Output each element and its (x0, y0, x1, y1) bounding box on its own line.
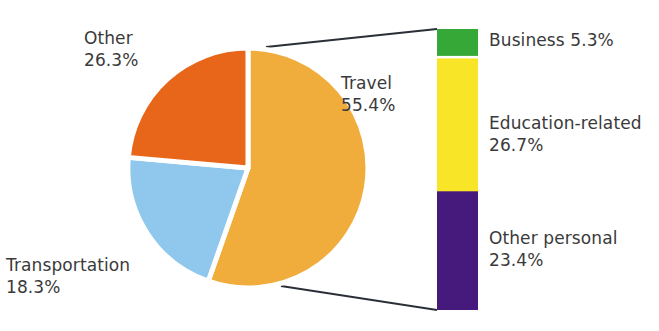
breakout-bar (437, 29, 478, 310)
breakout-segment-business[interactable] (437, 29, 478, 56)
leader-line-top (266, 29, 437, 47)
pie-label-other: Other 26.3% (84, 28, 204, 72)
breakout-label-business: Business 5.3% (489, 30, 659, 52)
breakout-segment-other-personal[interactable] (437, 191, 478, 310)
pie-label-travel: Travel 55.4% (341, 73, 451, 117)
pie-slices (128, 48, 368, 288)
breakout-label-other-personal: Other personal 23.4% (489, 228, 659, 272)
breakout-label-education: Education-related 26.7% (489, 113, 659, 157)
pie-chart-with-breakout-figure: Other 26.3% Travel 55.4% Transportation … (0, 0, 659, 331)
leader-line-bottom (281, 286, 437, 310)
pie-label-transportation: Transportation 18.3% (6, 255, 186, 299)
